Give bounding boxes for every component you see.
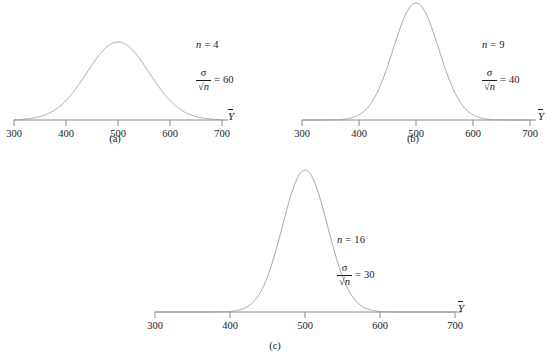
panel-b-sample-size-annotation: n = 9 xyxy=(482,40,505,51)
panel-b-standard-error-annotation: σ √n = 40 xyxy=(482,68,519,92)
panel-a-n-equals: = xyxy=(204,39,210,50)
x-axis-tick-label: 300 xyxy=(6,128,22,139)
x-axis-tick-label: 700 xyxy=(214,128,230,139)
x-axis-tick-label: 400 xyxy=(58,128,74,139)
panel-a-axis-title: Y xyxy=(228,110,234,122)
x-axis-tick-label: 400 xyxy=(222,320,238,331)
panel-c-sample-size-annotation: n = 16 xyxy=(337,235,365,246)
normal-density-curve xyxy=(302,3,530,120)
panel-a-se-value: 60 xyxy=(223,75,234,86)
panel-a-sample-size-annotation: n = 4 xyxy=(196,40,219,51)
panel-b-se-fraction: σ √n xyxy=(482,68,497,92)
panel-a-se-fraction: σ √n xyxy=(196,68,211,92)
panel-c: n = 16 σ √n = 30 Y (c) 300400500600700 xyxy=(140,155,557,362)
panel-c-n-equals: = xyxy=(345,234,351,245)
panel-b-se-denominator: √n xyxy=(482,81,497,93)
panel-b-se-value: 40 xyxy=(509,75,520,86)
panel-c-se-numerator: σ xyxy=(340,263,350,275)
panel-a-se-denominator: √n xyxy=(196,81,211,93)
panel-a-standard-error-annotation: σ √n = 60 xyxy=(196,68,233,92)
panel-b-n-equals: = xyxy=(490,39,496,50)
panel-b-n-value: 9 xyxy=(499,39,504,50)
panel-a-se-equals: = xyxy=(214,75,220,86)
panel-a-se-numerator: σ xyxy=(199,68,209,80)
panel-c-n-value: 16 xyxy=(354,234,365,245)
panel-c-plot xyxy=(140,155,557,362)
x-axis-tick-label: 300 xyxy=(147,320,163,331)
x-axis-tick-label: 500 xyxy=(110,128,126,139)
x-axis-tick-label: 500 xyxy=(408,128,424,139)
panel-c-se-value: 30 xyxy=(364,270,375,281)
x-axis-tick-label: 500 xyxy=(297,320,313,331)
panel-a-plot xyxy=(0,0,280,150)
x-axis-tick-label: 600 xyxy=(465,128,481,139)
x-axis-tick-label: 600 xyxy=(162,128,178,139)
panel-b-axis-title: Y xyxy=(538,110,544,122)
panel-c-se-equals: = xyxy=(355,270,361,281)
x-axis-tick-label: 300 xyxy=(294,128,310,139)
panel-c-axis-title: Y xyxy=(458,302,464,314)
panel-b-se-numerator: σ xyxy=(485,68,495,80)
panel-c-se-fraction: σ √n xyxy=(337,263,352,287)
x-axis-tick-label: 700 xyxy=(447,320,463,331)
panel-b-se-equals: = xyxy=(500,75,506,86)
panel-a-n-value: 4 xyxy=(213,39,218,50)
panel-c-se-denominator: √n xyxy=(337,276,352,288)
panel-b: n = 9 σ √n = 40 Y (b) 300400500600700 xyxy=(290,0,557,150)
panel-c-n-symbol: n xyxy=(337,234,342,245)
normal-density-curve xyxy=(14,42,222,120)
x-axis-tick-label: 400 xyxy=(351,128,367,139)
normal-density-curve xyxy=(155,170,455,312)
sampling-distribution-figure: n = 4 σ √n = 60 Y (a) 300400500600700 n … xyxy=(0,0,557,362)
panel-b-n-symbol: n xyxy=(482,39,487,50)
panel-c-caption: (c) xyxy=(269,340,281,351)
panel-a-n-symbol: n xyxy=(196,39,201,50)
panel-a: n = 4 σ √n = 60 Y (a) 300400500600700 xyxy=(0,0,280,150)
x-axis-tick-label: 700 xyxy=(522,128,538,139)
panel-c-standard-error-annotation: σ √n = 30 xyxy=(337,263,374,287)
x-axis-tick-label: 600 xyxy=(372,320,388,331)
